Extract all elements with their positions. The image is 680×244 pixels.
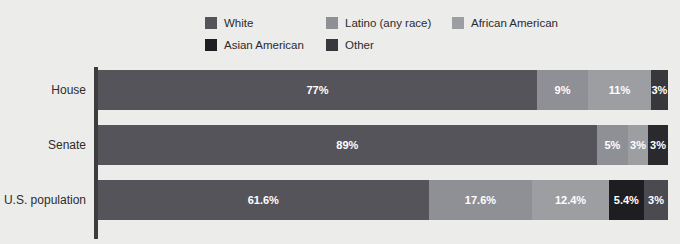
bar-segment-value: 3%: [650, 139, 666, 151]
legend-label-white: White: [224, 16, 253, 30]
bar-row: U.S. population 61.6% 17.6% 12.4% 5.4% 3…: [98, 180, 668, 220]
legend-swatch-asian-american: [205, 39, 217, 51]
bar-segment-asian-american[interactable]: 5.4%: [609, 180, 644, 220]
bar-segment-african-american[interactable]: 11%: [588, 70, 651, 110]
stacked-bar-senate: 89% 5% 3% 3%: [98, 125, 668, 165]
legend-item-other[interactable]: Other: [326, 36, 374, 54]
chart-legend: White Latino (any race) African American…: [205, 12, 605, 56]
legend-item-african-american[interactable]: African American: [452, 14, 558, 32]
legend-swatch-white: [205, 17, 217, 29]
axis-label-house: House: [0, 70, 86, 110]
bar-segment-value: 11%: [609, 84, 630, 96]
bar-row: Senate 89% 5% 3% 3%: [98, 125, 668, 165]
legend-swatch-african-american: [452, 17, 464, 29]
bar-row: House 77% 9% 11% 3%: [98, 70, 668, 110]
plot-area: House 77% 9% 11% 3% Senate: [0, 62, 680, 244]
bar-segment-other[interactable]: 3%: [648, 125, 668, 165]
bar-segment-value: 5%: [604, 139, 620, 151]
legend-row-bottom: Asian American Other: [205, 36, 605, 56]
legend-swatch-latino: [326, 17, 338, 29]
bar-segment-latino[interactable]: 17.6%: [429, 180, 533, 220]
bar-segment-value: 12.4%: [555, 194, 586, 206]
bar-segment-other[interactable]: 3%: [651, 70, 668, 110]
bar-segment-african-american[interactable]: 12.4%: [532, 180, 608, 220]
legend-swatch-other: [326, 39, 338, 51]
bar-segment-value: 61.6%: [248, 194, 279, 206]
bar-segment-value: 77%: [306, 84, 328, 96]
legend-item-latino[interactable]: Latino (any race): [326, 14, 431, 32]
bar-segment-value: 3%: [648, 194, 664, 206]
bar-segment-value: 17.6%: [465, 194, 496, 206]
legend-label-other: Other: [345, 38, 374, 52]
bar-segment-value: 89%: [336, 139, 358, 151]
bar-segment-white[interactable]: 61.6%: [98, 180, 429, 220]
bar-segment-african-american[interactable]: 3%: [628, 125, 648, 165]
stacked-bar-us-population: 61.6% 17.6% 12.4% 5.4% 3%: [98, 180, 668, 220]
axis-label-senate: Senate: [0, 125, 86, 165]
legend-item-asian-american[interactable]: Asian American: [205, 36, 304, 54]
bar-segment-value: 5.4%: [614, 194, 639, 206]
bar-segment-other[interactable]: 3%: [644, 180, 668, 220]
stacked-bar-house: 77% 9% 11% 3%: [98, 70, 668, 110]
legend-label-asian-american: Asian American: [224, 38, 304, 52]
legend-row-top: White Latino (any race) African American: [205, 14, 605, 34]
bar-segment-white[interactable]: 77%: [98, 70, 537, 110]
bar-segment-latino[interactable]: 5%: [597, 125, 628, 165]
bar-segment-latino[interactable]: 9%: [537, 70, 588, 110]
bar-segment-white[interactable]: 89%: [98, 125, 597, 165]
legend-label-african-american: African American: [471, 16, 558, 30]
bar-segment-value: 9%: [555, 84, 571, 96]
stacked-bar-chart: White Latino (any race) African American…: [0, 0, 680, 244]
axis-label-us-population: U.S. population: [0, 180, 86, 220]
legend-label-latino: Latino (any race): [345, 16, 431, 30]
bar-segment-value: 3%: [651, 84, 667, 96]
legend-item-white[interactable]: White: [205, 14, 253, 32]
bar-segment-value: 3%: [630, 139, 646, 151]
